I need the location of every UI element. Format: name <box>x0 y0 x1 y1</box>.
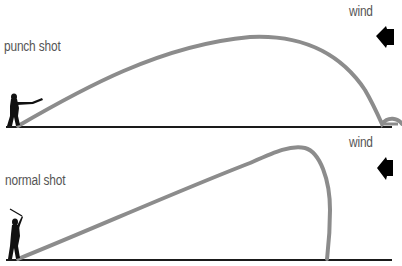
wind-arrow-icon <box>376 26 394 48</box>
punch-shot-trajectory <box>18 37 402 126</box>
punch-shot-label: punch shot <box>4 38 61 54</box>
wind-arrow-icon <box>377 157 393 180</box>
normal-shot-trajectory <box>18 147 330 259</box>
wind-label-bottom: wind <box>349 134 373 150</box>
golfer-icon <box>8 209 23 259</box>
normal-shot-label: normal shot <box>5 172 65 188</box>
wind-label-top: wind <box>349 3 373 19</box>
punch-shot-panel <box>6 26 402 127</box>
normal-shot-panel <box>6 147 393 260</box>
